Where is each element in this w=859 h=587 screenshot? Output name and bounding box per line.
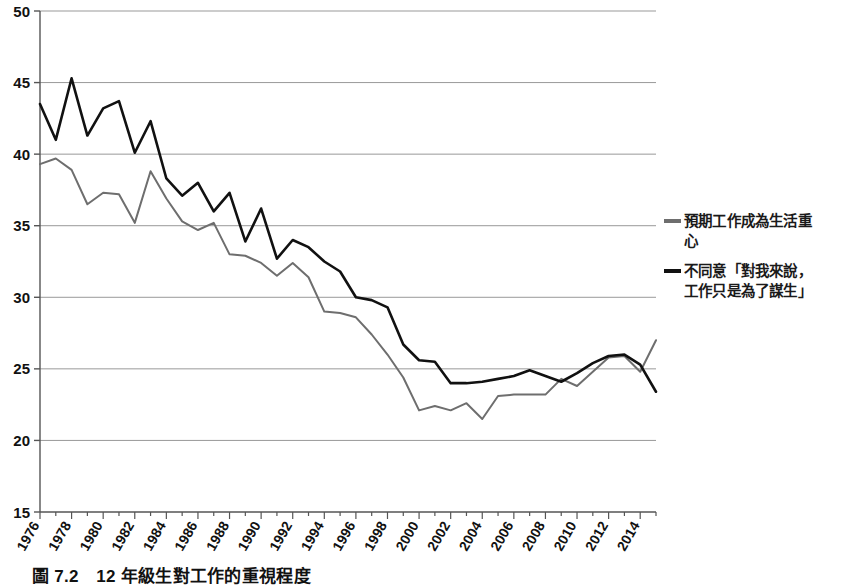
y-axis-tick-label: 45 xyxy=(13,74,30,91)
x-axis-labels-group: 1976197819801982198419861988199019921994… xyxy=(13,518,643,553)
x-axis-tick-label: 1986 xyxy=(171,518,201,553)
x-axis-tick-label: 1990 xyxy=(234,518,264,553)
chart-legend: 預期工作成為生活重心 不同意「對我來說，工作只是為了謀生」 xyxy=(664,212,859,312)
legend-label-expect-work-central: 預期工作成為生活重心 xyxy=(684,212,812,251)
data-series-group xyxy=(40,78,656,419)
legend-label-line2: 工作只是為了謀生」 xyxy=(684,283,812,299)
legend-label-line1: 預期工作成為生活重 xyxy=(684,213,812,229)
x-axis-tick-label: 1994 xyxy=(297,518,327,553)
x-axis-tick-label: 1996 xyxy=(329,518,359,553)
x-axis-tick-label: 2014 xyxy=(613,518,643,553)
x-axis-tick-label: 1980 xyxy=(76,518,106,553)
y-axis-tick-label: 20 xyxy=(13,432,30,449)
x-axis-tick-label: 2004 xyxy=(455,518,485,553)
x-axis-tick-label: 1988 xyxy=(203,518,233,553)
x-axis-tick-label: 1992 xyxy=(266,518,296,553)
legend-swatch-gray-line xyxy=(664,219,681,223)
x-axis-ticks-group xyxy=(40,512,656,519)
x-axis-tick-label: 1998 xyxy=(361,518,391,553)
y-axis-tick-label: 30 xyxy=(13,289,30,306)
y-axis-tick-label: 40 xyxy=(13,146,30,163)
series-line-1 xyxy=(40,78,656,391)
y-axis-tick-label: 35 xyxy=(13,217,30,234)
legend-swatch-black-line xyxy=(664,269,681,273)
legend-entry-disagree-work-just-living: 不同意「對我來說，工作只是為了謀生」 xyxy=(664,262,859,301)
x-axis-tick-label: 2012 xyxy=(582,518,612,553)
legend-entry-expect-work-central: 預期工作成為生活重心 xyxy=(664,212,859,251)
x-axis-tick-label: 1982 xyxy=(108,518,138,553)
x-axis-tick-label: 1984 xyxy=(140,518,170,553)
x-axis-tick-label: 2000 xyxy=(392,518,422,553)
figure-caption: 圖 7.2 12 年級生對工作的重視程度 xyxy=(32,562,311,587)
x-axis-tick-label: 2010 xyxy=(550,518,580,553)
legend-label-line2: 心 xyxy=(684,233,698,249)
x-axis-tick-label: 2008 xyxy=(519,518,549,553)
y-axis-labels-group: 1520253035404550 xyxy=(13,3,30,521)
y-axis-tick-label: 50 xyxy=(13,3,30,20)
y-axis-ticks-group xyxy=(34,11,40,512)
y-axis-tick-label: 15 xyxy=(13,504,30,521)
gridlines-group xyxy=(40,11,656,440)
x-axis-tick-label: 1978 xyxy=(45,518,75,553)
x-axis-tick-label: 2002 xyxy=(424,518,454,553)
legend-label-line1: 不同意「對我來說， xyxy=(684,263,812,279)
x-axis-tick-label: 1976 xyxy=(13,518,43,553)
x-axis-tick-label: 2006 xyxy=(487,518,517,553)
y-axis-tick-label: 25 xyxy=(13,360,30,377)
legend-label-disagree-work-just-living: 不同意「對我來說，工作只是為了謀生」 xyxy=(684,262,812,301)
